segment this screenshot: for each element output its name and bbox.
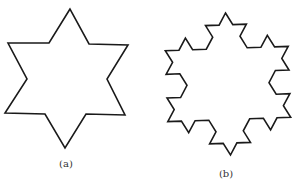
figure-canvas: [0, 0, 295, 189]
figure-label-a: (a): [59, 158, 73, 169]
koch-snowflake-shape: [165, 13, 290, 155]
hexagram-shape: [5, 9, 128, 148]
figure-label-b: (b): [219, 168, 233, 179]
